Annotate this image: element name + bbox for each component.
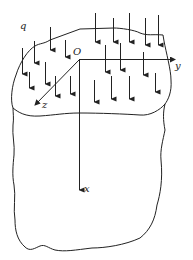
body-outline: [12, 28, 172, 251]
origin-label: O: [73, 46, 81, 57]
z-axis-label: z: [41, 99, 48, 110]
x-axis-label: x: [84, 183, 90, 194]
surface-front-edge: [13, 104, 165, 116]
half-space-load-diagram: q O y z x: [0, 0, 193, 260]
distributed-load-arrows: [23, 13, 159, 102]
y-axis-label: y: [174, 60, 181, 71]
load-label-q: q: [20, 20, 26, 31]
